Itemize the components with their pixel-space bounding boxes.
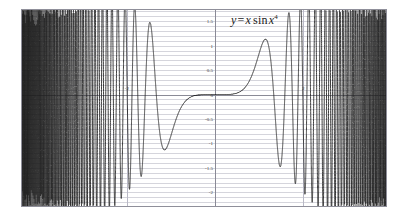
equation-annotation: y=xsinx4 (231, 13, 278, 28)
equation-function: sin (251, 13, 269, 27)
x-tick-label: -2 (125, 86, 129, 91)
equation-equals: = (237, 13, 246, 27)
x-tick-label: 2 (302, 86, 305, 91)
figure-container: 1.510.50-0.5-1-1.5-2-22 y=xsinx4 (0, 0, 406, 221)
y-tick-label: 1.5 (207, 19, 213, 24)
y-tick-label: 0.5 (207, 68, 213, 73)
equation-lhs: y (231, 13, 237, 27)
y-tick-label: 0 (211, 92, 214, 97)
plot-area: 1.510.50-0.5-1-1.5-2-22 y=xsinx4 (21, 9, 387, 207)
equation-exponent: 4 (274, 13, 278, 21)
y-tick-label: -1 (209, 141, 213, 146)
y-tick-label: -1.5 (205, 165, 213, 170)
plot-canvas (21, 9, 387, 207)
y-tick-label: -2 (209, 190, 213, 195)
y-tick-label: -0.5 (205, 117, 213, 122)
y-tick-label: 1 (211, 43, 214, 48)
